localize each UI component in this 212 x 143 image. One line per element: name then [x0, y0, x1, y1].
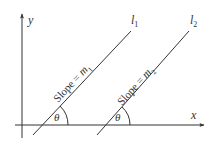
x-axis-label: x	[190, 108, 197, 122]
y-axis-label: y	[27, 13, 34, 27]
line-l2-label: l2	[190, 13, 197, 29]
angle-arc-l1	[60, 106, 68, 125]
angle-theta-l2: θ	[115, 111, 121, 123]
angle-arc-l2	[122, 107, 130, 125]
line-l1-label: l1	[131, 13, 138, 29]
line-l1-slope-label: Slope = m1	[51, 61, 95, 107]
angle-theta-l1: θ	[54, 111, 60, 123]
line-l2-slope-label: Slope = m2	[115, 63, 159, 109]
diagram-canvas: y x l1 Slope = m1 θ l2 Slope = m2 θ	[0, 0, 212, 143]
